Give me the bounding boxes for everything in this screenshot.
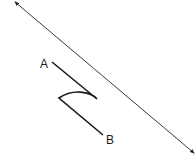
- path-a-to-b: [52, 62, 103, 135]
- label-a: A: [40, 57, 48, 71]
- label-b: B: [106, 133, 114, 147]
- line-with-arrows: [15, 2, 194, 153]
- geometry-diagram: A B: [0, 0, 196, 157]
